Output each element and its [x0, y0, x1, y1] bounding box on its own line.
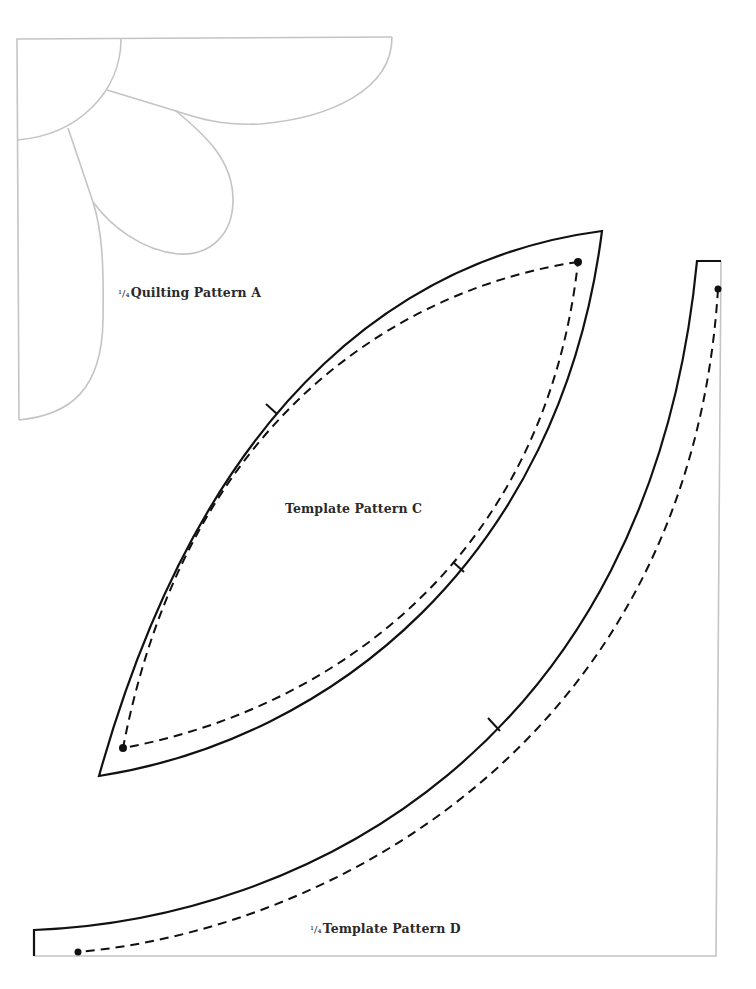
quilting-pattern-a	[17, 37, 392, 420]
pattern-a-frame	[17, 37, 392, 420]
pattern-d-fraction: ¹/₄	[310, 924, 322, 935]
pattern-d-cut-line	[34, 261, 721, 956]
pattern-a-petal-middle	[68, 111, 233, 254]
pattern-a-petal-left	[19, 202, 103, 420]
pattern-c-notch-1	[266, 404, 277, 414]
pattern-c-dot-top	[574, 258, 582, 266]
template-pattern-d	[34, 261, 722, 956]
pattern-a-label: ¹/₄Quilting Pattern A	[118, 285, 261, 300]
pattern-d-sew-line	[78, 289, 718, 952]
pattern-d-notch	[488, 718, 500, 731]
pattern-a-title: Quilting Pattern A	[131, 285, 261, 300]
pattern-d-fold-line	[34, 261, 721, 956]
pattern-d-dot-top	[715, 286, 722, 293]
pattern-c-dot-bottom	[119, 744, 127, 752]
pattern-c-title: Template Pattern C	[285, 501, 422, 516]
pattern-d-title: Template Pattern D	[323, 921, 461, 936]
pattern-d-label: ¹/₄Template Pattern D	[310, 921, 461, 936]
pattern-d-dot-bottom	[75, 949, 82, 956]
pattern-c-label: Template Pattern C	[285, 501, 422, 516]
pattern-a-fraction: ¹/₄	[118, 288, 130, 299]
pattern-a-petal-top	[107, 37, 392, 124]
pattern-sheet	[0, 0, 756, 989]
pattern-a-center-arc	[17, 39, 121, 140]
